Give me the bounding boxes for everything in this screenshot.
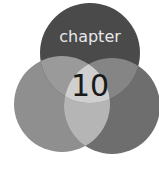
venn-diagram: chapter 10 — [0, 0, 159, 170]
chapter-label: chapter — [59, 27, 121, 46]
chapter-number: 10 — [71, 68, 109, 103]
